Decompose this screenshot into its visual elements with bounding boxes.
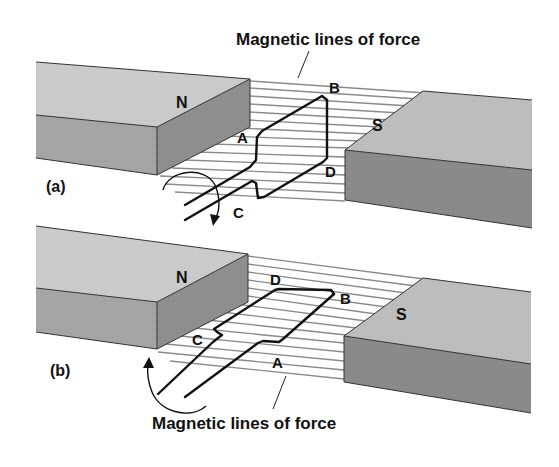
panel-b-label: (b) (50, 362, 70, 379)
top-caption-leader (298, 51, 309, 78)
corner-c-label-a: C (233, 204, 244, 221)
corner-d-label-b: D (270, 271, 281, 288)
north-pole-label-b: N (176, 269, 188, 286)
corner-d-label-a: D (325, 163, 336, 180)
north-magnet-a: N (36, 62, 250, 175)
corner-b-label-a: B (329, 79, 340, 96)
south-pole-label-b: S (396, 306, 407, 323)
rotation-arrow-b-icon (143, 357, 206, 413)
bottom-caption-leader (273, 376, 286, 409)
generator-loop-diagram: N S A B C D (a) (0, 0, 559, 467)
panel-b: N S D B C A (b) (36, 226, 531, 433)
bottom-caption: Magnetic lines of force (152, 414, 336, 433)
north-pole-label-a: N (176, 94, 188, 111)
top-caption: Magnetic lines of force (236, 30, 420, 49)
corner-a-label-a: A (237, 129, 248, 146)
corner-c-label-b: C (192, 331, 203, 348)
panel-a: N S A B C D (a) (36, 30, 532, 228)
south-magnet-b: S (344, 278, 531, 413)
corner-a-label-b: A (272, 354, 283, 371)
rotation-arrow-a-icon (163, 172, 220, 226)
panel-a-label: (a) (46, 178, 66, 195)
corner-b-label-b: B (340, 290, 351, 307)
south-pole-label-a: S (372, 117, 383, 134)
